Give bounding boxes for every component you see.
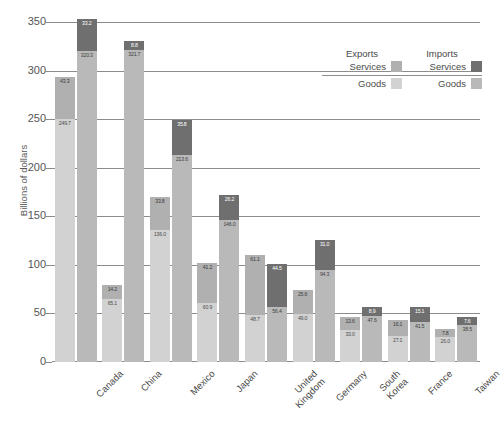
- bar-value-label: 213.6: [172, 156, 192, 162]
- bar-value-label: 14.2: [102, 286, 122, 292]
- bar-segment-goods: 38.5: [457, 325, 477, 362]
- y-axis-tick-mark: [45, 313, 52, 314]
- bar-value-label: 136.0: [150, 231, 170, 237]
- bar-value-label: 48.7: [245, 316, 265, 322]
- bar-value-label: 31.0: [315, 241, 335, 247]
- bar-value-label: 94.3: [315, 271, 335, 277]
- bar-value-label: 249.7: [55, 120, 75, 126]
- bar-segment-goods: 41.5: [410, 322, 430, 362]
- bar-value-label: 7.8: [435, 330, 455, 336]
- x-axis-category-label: China: [139, 368, 164, 393]
- bar-segment-services: 14.2: [102, 285, 122, 299]
- bar-value-label: 26.0: [435, 338, 455, 344]
- bar-value-label: 15.1: [410, 308, 430, 314]
- y-axis-tick-label: 200: [0, 161, 46, 173]
- bar-value-label: 25.6: [293, 291, 313, 297]
- bar-segment-goods: 56.4: [267, 307, 287, 362]
- y-axis-tick-label: 100: [0, 258, 46, 270]
- legend-swatch-imports-goods: [471, 78, 482, 89]
- bar-segment-goods: 48.7: [245, 315, 265, 362]
- bar-segment-services: 13.6: [340, 317, 360, 330]
- x-axis-category-label: Canada: [94, 368, 125, 399]
- bar-segment-goods: 65.1: [102, 299, 122, 362]
- legend-label-exports-goods: Goods: [358, 78, 386, 89]
- bar-value-label: 60.9: [197, 304, 217, 310]
- chart-legend: Exports Imports Services Services Goods …: [322, 48, 482, 89]
- bar-value-label: 43.3: [55, 78, 75, 84]
- bar-segment-services: 8.8: [124, 41, 144, 50]
- bar-segment-services: 43.3: [55, 77, 75, 119]
- legend-label-imports-goods: Goods: [438, 78, 466, 89]
- bar-value-label: 33.8: [150, 198, 170, 204]
- legend-item-exports-services: Services: [322, 61, 402, 72]
- y-axis-tick-mark: [45, 216, 52, 217]
- bar-value-label: 61.1: [245, 256, 265, 262]
- x-axis-category-label: France: [425, 368, 454, 397]
- bar-segment-services: 33.8: [150, 197, 170, 230]
- bar-segment-goods: 94.3: [315, 270, 335, 362]
- bar-segment-services: 25.6: [293, 290, 313, 315]
- bar-segment-goods: 146.0: [219, 220, 239, 362]
- bar-value-label: 7.6: [457, 318, 477, 324]
- bar-value-label: 13.6: [340, 318, 360, 324]
- bar-segment-goods: 60.9: [197, 303, 217, 362]
- bar-value-label: 320.3: [77, 52, 97, 58]
- y-axis-tick-mark: [45, 265, 52, 266]
- bar-value-label: 41.5: [410, 323, 430, 329]
- y-axis-tick-label: 150: [0, 209, 46, 221]
- bar-value-label: 8.9: [362, 308, 382, 314]
- y-axis-tick-label: 0: [0, 355, 46, 367]
- x-axis-category-label: United Kingdom: [285, 368, 327, 410]
- bar-segment-services: 15.1: [410, 307, 430, 322]
- bar-value-label: 33.0: [340, 331, 360, 337]
- legend-item-exports-goods: Goods: [322, 78, 402, 89]
- legend-header-exports: Exports: [322, 48, 402, 59]
- bar-segment-services: 8.9: [362, 307, 382, 316]
- y-axis-tick-mark: [45, 119, 52, 120]
- legend-swatch-exports-goods: [391, 78, 402, 89]
- legend-label-imports-services: Services: [430, 61, 466, 72]
- bar-group: 60.941.2146.026.2: [195, 22, 243, 362]
- bar-segment-services: 7.8: [435, 329, 455, 337]
- legend-item-imports-services: Services: [402, 61, 482, 72]
- bar-value-label: 38.5: [457, 326, 477, 332]
- bar-value-label: 27.1: [388, 337, 408, 343]
- y-axis-tick-label: 50: [0, 306, 46, 318]
- bar-segment-services: 33.2: [77, 19, 97, 51]
- bar-value-label: 33.2: [77, 20, 97, 26]
- legend-divider: [322, 75, 482, 76]
- bar-segment-services: 31.0: [315, 240, 335, 270]
- bar-value-label: 321.7: [124, 51, 144, 57]
- bar-value-label: 47.6: [362, 317, 382, 323]
- bar-segment-services: 61.1: [245, 255, 265, 314]
- bar-value-label: 8.8: [124, 42, 144, 48]
- bar-value-label: 65.1: [102, 300, 122, 306]
- bar-segment-goods: 136.0: [150, 230, 170, 362]
- bar-value-label: 35.8: [172, 121, 192, 127]
- bar-segment-services: 44.5: [267, 264, 287, 307]
- bar-group: 136.033.8213.635.8: [147, 22, 195, 362]
- y-axis-tick-mark: [45, 22, 52, 23]
- bar-segment-services: 26.2: [219, 195, 239, 220]
- bar-segment-goods: 27.1: [388, 336, 408, 362]
- bar-segment-goods: 321.7: [124, 50, 144, 363]
- bar-segment-goods: 49.0: [293, 314, 313, 362]
- x-axis-category-label: Japan: [234, 368, 260, 394]
- legend-item-imports-goods: Goods: [402, 78, 482, 89]
- bar-segment-services: 7.6: [457, 317, 477, 324]
- bar-group: 249.743.3320.333.2: [52, 22, 100, 362]
- bar-segment-services: 41.2: [197, 263, 217, 303]
- bar-value-label: 49.0: [293, 315, 313, 321]
- bar-value-label: 44.5: [267, 265, 287, 271]
- bar-segment-goods: 249.7: [55, 119, 75, 362]
- bar-segment-goods: 47.6: [362, 316, 382, 362]
- legend-header-imports: Imports: [402, 48, 482, 59]
- y-axis-tick-label: 350: [0, 15, 46, 27]
- y-axis-tick-label: 250: [0, 112, 46, 124]
- bar-segment-goods: 213.6: [172, 155, 192, 362]
- bar-value-label: 26.2: [219, 196, 239, 202]
- bar-segment-goods: 320.3: [77, 51, 97, 362]
- bar-value-label: 16.1: [388, 321, 408, 327]
- bar-group: 48.761.156.444.5: [242, 22, 290, 362]
